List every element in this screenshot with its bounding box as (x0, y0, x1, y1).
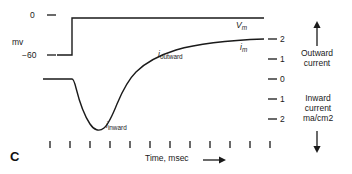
i-outward-subscript: outward (160, 53, 183, 60)
figure-panel-c: 0 mv −60 Vm im ioutward iinward 2 1 0 1 … (0, 0, 352, 174)
right-tick-label-0: 0 (280, 74, 285, 84)
time-axis-label: Time, msec (145, 154, 189, 164)
right-tick-label-m2: 2 (280, 114, 285, 124)
inward-current-caption: Inward current ma/cm2 (292, 93, 344, 123)
right-axis-ticks (268, 39, 277, 119)
i-outward-label: ioutward (158, 49, 183, 59)
im-trace-label: im (240, 42, 247, 52)
up-arrow-icon (313, 21, 320, 46)
i-inward-subscript: inward (108, 124, 127, 131)
left-tick-label-minus60: −60 (22, 50, 36, 60)
left-axis-unit-label: mv (12, 38, 23, 48)
right-tick-label-p1: 1 (280, 54, 285, 64)
time-axis-ticks (50, 141, 270, 148)
inward-current-line1: Inward (292, 93, 344, 103)
down-arrow-icon (313, 131, 320, 153)
vm-symbol: V (236, 20, 242, 30)
inward-current-units: ma/cm2 (292, 113, 344, 123)
outward-current-caption: Outward current (292, 48, 342, 68)
right-arrow-icon (203, 157, 226, 164)
inward-current-line2: current (292, 103, 344, 113)
im-subscript: m (242, 46, 247, 53)
left-tick-label-0: 0 (30, 10, 35, 20)
right-tick-label-p2: 2 (280, 34, 285, 44)
left-axis-ticks (47, 15, 56, 55)
outward-current-line2: current (292, 58, 342, 68)
vm-subscript: m (242, 24, 247, 31)
plot-canvas (0, 0, 352, 174)
right-tick-label-m1: 1 (280, 94, 285, 104)
panel-letter-c: C (10, 149, 19, 164)
i-inward-label: iinward (106, 120, 127, 130)
outward-current-line1: Outward (292, 48, 342, 58)
im-trace (43, 39, 264, 130)
vm-trace-label: Vm (236, 20, 247, 30)
